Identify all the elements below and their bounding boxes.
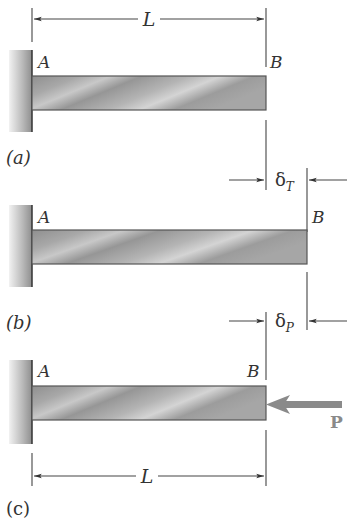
panel-caption-a: (a)	[6, 147, 31, 168]
fixed-wall-support	[9, 50, 32, 132]
length-dimension-c: L	[32, 430, 266, 487]
end-label-b: B	[269, 52, 283, 72]
end-label-b: B	[246, 361, 260, 381]
bar-ab-compressed	[32, 386, 266, 420]
length-dimension-a: L	[32, 8, 266, 67]
bar-ab-elongated	[32, 230, 307, 264]
load-label-p: P	[330, 412, 343, 432]
load-arrow-shaft	[282, 401, 342, 408]
length-label: L	[140, 465, 154, 487]
axial-load-arrow: P	[266, 395, 343, 432]
thermal-elongation-dimension: δT	[229, 168, 347, 232]
panel-caption-b: (b)	[6, 312, 32, 333]
end-label-a: A	[36, 52, 50, 72]
end-label-b: B	[311, 207, 325, 227]
delta-t-label: δT	[275, 169, 295, 194]
fixed-wall-support	[9, 360, 32, 444]
delta-p-label: δP	[275, 310, 295, 335]
panel-caption-c: (c)	[6, 498, 30, 519]
length-label: L	[142, 8, 156, 30]
cantilever-bar-figure: L A B (a) δT A B (b) δP	[0, 0, 357, 521]
panel-a: L A B (a)	[6, 8, 283, 190]
bar-ab	[32, 76, 266, 110]
fixed-wall-support	[9, 205, 32, 287]
end-label-a: A	[36, 207, 50, 227]
panel-c: A B P L (c)	[6, 360, 343, 519]
end-label-a: A	[36, 361, 50, 381]
